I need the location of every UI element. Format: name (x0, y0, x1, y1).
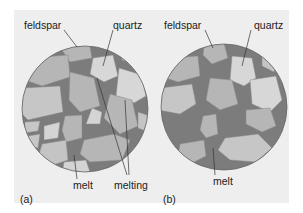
label-melting-a: melting (114, 180, 148, 191)
melting-diagram (0, 0, 303, 213)
label-melt-b: melt (213, 176, 233, 187)
label-feldspar-b: feldspar (164, 20, 201, 31)
circle-a-thin-section (18, 35, 150, 174)
circle-b-thin-section (158, 36, 287, 170)
panel-tag-a: (a) (20, 194, 33, 205)
feldspar-grain (62, 115, 82, 142)
panel-tag-b: (b) (163, 194, 176, 205)
label-quartz-b: quartz (254, 20, 283, 31)
grain (96, 36, 115, 48)
grain (178, 40, 195, 54)
label-feldspar-a: feldspar (24, 20, 61, 31)
label-quartz-a: quartz (113, 20, 142, 31)
label-melt-a: melt (73, 180, 93, 191)
